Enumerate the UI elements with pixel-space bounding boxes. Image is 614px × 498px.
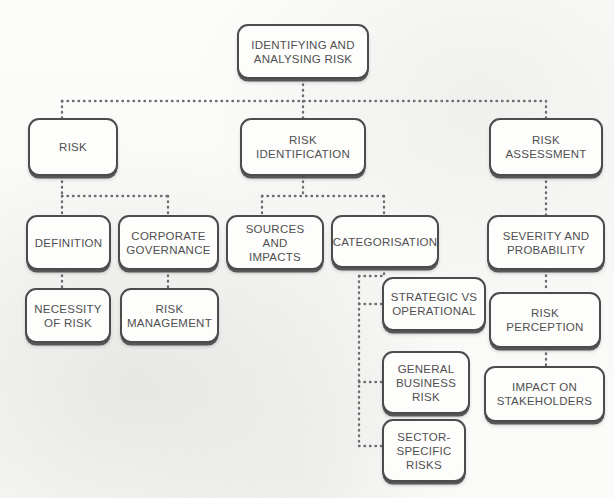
node-risk-identification[interactable]: RISK IDENTIFICATION (240, 118, 366, 176)
node-impact-on-stakeholders[interactable]: IMPACT ON STAKEHOLDERS (484, 366, 605, 422)
node-severity-and-probability[interactable]: SEVERITY AND PROBABILITY (487, 215, 605, 270)
node-definition[interactable]: DEFINITION (26, 215, 111, 270)
node-general-business-risk[interactable]: GENERAL BUSINESS RISK (382, 351, 470, 414)
node-necessity-of-risk[interactable]: NECESSITY OF RISK (25, 288, 111, 343)
node-risk[interactable]: RISK (28, 118, 118, 176)
diagram-canvas: IDENTIFYING AND ANALYSING RISK RISK RISK… (0, 0, 614, 498)
node-risk-perception[interactable]: RISK PERCEPTION (489, 292, 601, 348)
node-sources-and-impacts[interactable]: SOURCES AND IMPACTS (226, 215, 324, 270)
node-sector-specific-risks[interactable]: SECTOR- SPECIFIC RISKS (382, 419, 466, 482)
node-root[interactable]: IDENTIFYING AND ANALYSING RISK (237, 24, 369, 79)
node-strategic-vs-operational[interactable]: STRATEGIC VS OPERATIONAL (382, 277, 486, 331)
node-corporate-governance[interactable]: CORPORATE GOVERNANCE (118, 215, 219, 270)
node-risk-management[interactable]: RISK MANAGEMENT (120, 288, 219, 343)
node-categorisation[interactable]: CATEGORISATION (331, 215, 439, 268)
node-risk-assessment[interactable]: RISK ASSESSMENT (489, 118, 603, 176)
